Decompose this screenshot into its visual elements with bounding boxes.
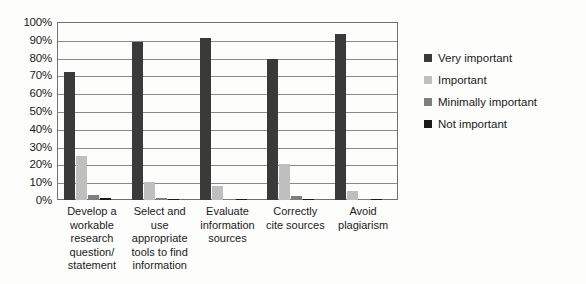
legend-label: Not important [438, 118, 507, 130]
bar-group [58, 22, 126, 200]
legend-swatch-icon [424, 76, 432, 84]
legend-item: Very important [424, 47, 584, 69]
bar [347, 191, 358, 200]
y-axis-labels: 100%90%80%70%60%50%40%30%20%10%0% [0, 22, 52, 200]
bar [156, 198, 167, 200]
y-axis-tick-label: 90% [30, 34, 52, 46]
bar [236, 199, 247, 200]
legend: Very importantImportantMinimally importa… [424, 47, 584, 135]
x-axis-category-label: Evaluate information sources [194, 205, 262, 273]
bar-groups [58, 22, 397, 200]
bar [371, 199, 382, 200]
y-axis-tick-label: 10% [30, 176, 52, 188]
y-axis-tick-label: 60% [30, 87, 52, 99]
y-axis-tick-label: 40% [30, 123, 52, 135]
bar [200, 38, 211, 200]
bar [224, 199, 235, 200]
bar [279, 164, 290, 200]
x-axis-category-label: Correctly cite sources [261, 205, 329, 273]
bar [64, 72, 75, 200]
bar-chart: 100%90%80%70%60%50%40%30%20%10%0% Develo… [0, 0, 586, 284]
y-axis-tick-label: 0% [36, 194, 52, 206]
y-axis-tick-label: 20% [30, 158, 52, 170]
y-axis-tick-label: 50% [30, 105, 52, 117]
y-axis-tick-label: 70% [30, 69, 52, 81]
bar [359, 199, 370, 200]
legend-swatch-icon [424, 54, 432, 62]
bar [212, 186, 223, 200]
x-axis-category-label: Avoid plagiarism [329, 205, 397, 273]
bar-group [329, 22, 397, 200]
x-axis-category-label: Select and use appropriate tools to find… [126, 205, 194, 273]
legend-label: Very important [438, 52, 512, 64]
bar-group [194, 22, 262, 200]
bar [168, 199, 179, 200]
bar-group [261, 22, 329, 200]
bar [88, 195, 99, 200]
legend-label: Important [438, 74, 487, 86]
bar [267, 59, 278, 200]
bar [303, 199, 314, 200]
y-axis-tick-label: 80% [30, 52, 52, 64]
legend-item: Not important [424, 113, 584, 135]
bar [132, 42, 143, 200]
legend-label: Minimally important [438, 96, 537, 108]
x-axis-labels: Develop a workable research question/ st… [58, 205, 397, 273]
bar-group [126, 22, 194, 200]
y-axis-tick-label: 30% [30, 141, 52, 153]
legend-item: Minimally important [424, 91, 584, 113]
bar [291, 196, 302, 200]
legend-item: Important [424, 69, 584, 91]
bar [144, 182, 155, 200]
bar [100, 198, 111, 200]
y-axis-tick-label: 100% [23, 16, 52, 28]
x-axis-category-label: Develop a workable research question/ st… [58, 205, 126, 273]
legend-swatch-icon [424, 98, 432, 106]
legend-swatch-icon [424, 120, 432, 128]
bar [76, 156, 87, 201]
bar [335, 34, 346, 200]
